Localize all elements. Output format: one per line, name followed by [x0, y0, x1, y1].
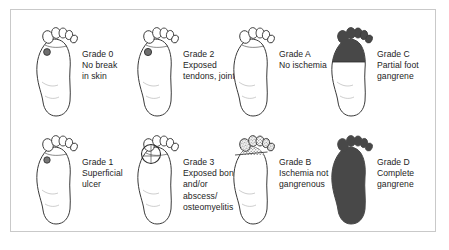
panel-grade-2: Grade 2 Exposed tendons, joint	[126, 20, 188, 120]
panel-grade-b: Grade B Ischemia not gangrenous	[222, 128, 284, 228]
desc-d-line-0: Complete	[377, 168, 414, 179]
wound-marker-icon	[144, 48, 151, 55]
panel-grade-c: Grade C Partial foot gangrene	[320, 20, 382, 120]
desc-c-line-0: Partial foot	[377, 60, 419, 71]
panel-grade-d: Grade D Complete gangrene	[320, 128, 382, 228]
grade-label-0: Grade 0	[82, 49, 117, 60]
panel-grade-1: Grade 1 Superficial ulcer	[25, 128, 87, 228]
foot-diagram-grade-0	[25, 20, 87, 120]
foot-diagram-grade-c	[320, 20, 382, 120]
grade-label-1: Grade 1	[82, 157, 123, 168]
desc-c-line-1: gangrene	[377, 71, 419, 82]
foot-diagram-grade-3	[126, 128, 188, 228]
panel-grade-3: Grade 3 Exposed bone and/or abscess/ ost…	[126, 128, 188, 228]
desc-d-line-1: gangrene	[377, 179, 414, 190]
grade-label-d: Grade D	[377, 157, 414, 168]
caption-grade-1: Grade 1 Superficial ulcer	[82, 157, 123, 191]
caption-grade-d: Grade D Complete gangrene	[377, 157, 414, 191]
caption-grade-c: Grade C Partial foot gangrene	[377, 49, 419, 83]
foot-diagram-grade-b	[222, 128, 284, 228]
desc-0-line-0: No break	[82, 60, 117, 71]
gangrene-region	[332, 147, 365, 224]
wound-marker-icon	[44, 49, 51, 56]
foot-diagram-grade-a	[222, 20, 284, 120]
figure-frame: Grade 0 No break in skin Grade 2 E	[10, 9, 436, 232]
desc-0-line-1: in skin	[82, 71, 117, 82]
foot-diagram-grade-2	[126, 20, 188, 120]
panel-grade-a: Grade A No ischemia	[222, 20, 284, 120]
foot-classification-figure: Grade 0 No break in skin Grade 2 E	[0, 0, 449, 250]
foot-diagram-grade-1	[25, 128, 87, 228]
caption-grade-0: Grade 0 No break in skin	[82, 49, 117, 83]
panel-grade-0: Grade 0 No break in skin	[25, 20, 87, 120]
grade-label-c: Grade C	[377, 49, 419, 60]
desc-1-line-1: ulcer	[82, 179, 123, 190]
ulcer-marker-icon	[44, 157, 50, 163]
desc-1-line-0: Superficial	[82, 168, 123, 179]
foot-diagram-grade-d	[320, 128, 382, 228]
